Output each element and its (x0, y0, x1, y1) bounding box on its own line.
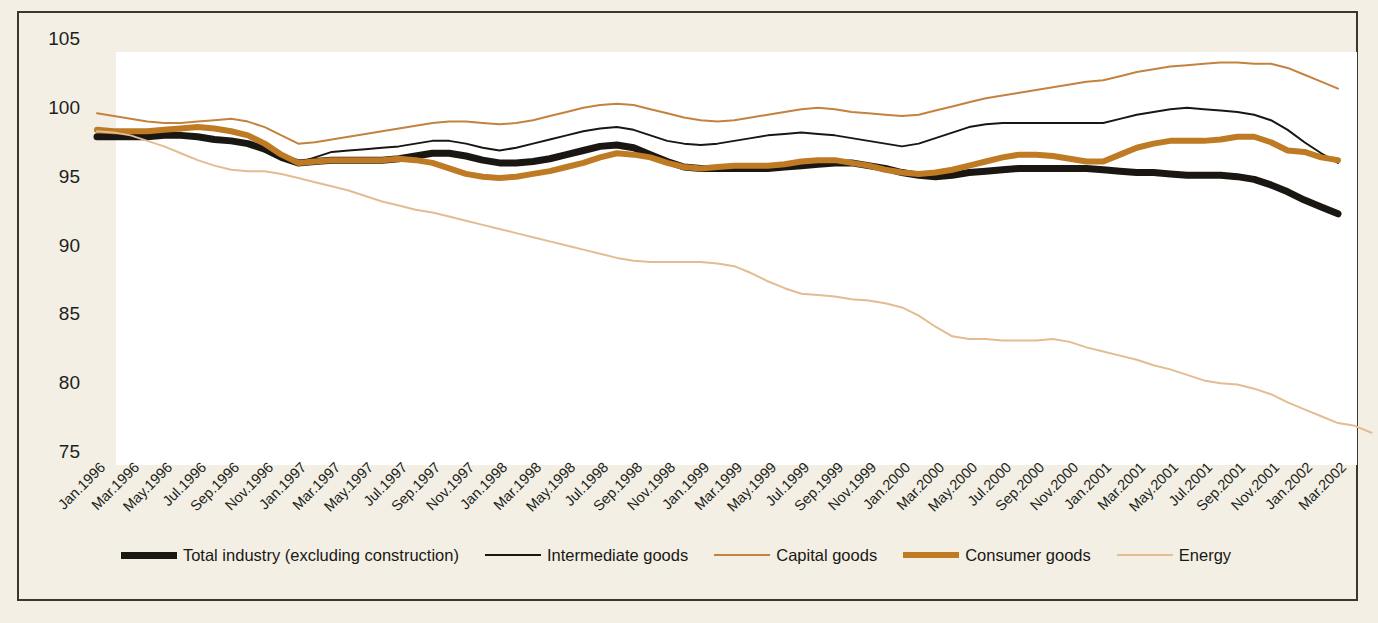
legend-swatch-icon (903, 552, 959, 558)
y-tick-label: 95 (20, 166, 80, 188)
legend-label: Total industry (excluding construction) (183, 546, 459, 565)
y-tick-label: 105 (20, 28, 80, 50)
legend-item[interactable]: Energy (1117, 546, 1231, 565)
plot-area (116, 52, 1357, 465)
legend-item[interactable]: Intermediate goods (485, 546, 688, 565)
legend-label: Consumer goods (965, 546, 1091, 565)
legend-swatch-icon (485, 554, 541, 556)
legend-label: Intermediate goods (547, 546, 688, 565)
y-tick-label: 85 (20, 303, 80, 325)
legend-swatch-icon (714, 554, 770, 556)
legend-label: Energy (1179, 546, 1231, 565)
chart-legend: Total industry (excluding construction)I… (0, 538, 1378, 572)
legend-item[interactable]: Consumer goods (903, 546, 1091, 565)
y-tick-label: 100 (20, 97, 80, 119)
legend-item[interactable]: Total industry (excluding construction) (121, 546, 459, 565)
chart-figure: 1051009590858075 Jan.1996Mar.1996May.199… (0, 0, 1378, 623)
legend-swatch-icon (1117, 554, 1173, 556)
legend-swatch-icon (121, 552, 177, 559)
y-tick-label: 75 (20, 441, 80, 463)
legend-item[interactable]: Capital goods (714, 546, 877, 565)
y-tick-label: 90 (20, 235, 80, 257)
legend-label: Capital goods (776, 546, 877, 565)
y-tick-label: 80 (20, 372, 80, 394)
